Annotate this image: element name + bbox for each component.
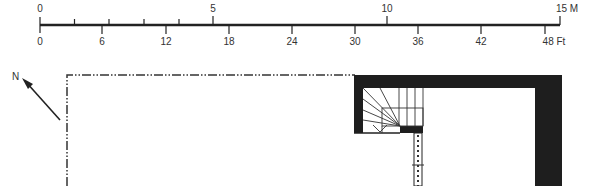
- scale-label-ft-48: 48 Ft: [543, 36, 566, 47]
- scale-label-ft-36: 36: [412, 36, 423, 47]
- floor-plan-diagram: 0 5 10 15 M 0 6 12 18 24 30 36 42 48 Ft …: [0, 0, 602, 186]
- scale-label-ft-18: 18: [223, 36, 234, 47]
- north-label: N: [12, 71, 19, 82]
- scale-bar: [40, 16, 560, 34]
- scale-label-ft-0: 0: [37, 36, 43, 47]
- scale-label-ft-12: 12: [160, 36, 171, 47]
- interior-partition: [412, 133, 424, 186]
- scale-label-metric-0: 0: [37, 3, 43, 14]
- staircase: [363, 88, 423, 133]
- scale-label-ft-6: 6: [99, 36, 105, 47]
- north-arrow-icon: [22, 78, 60, 120]
- scale-label-metric-15: 15 M: [556, 3, 578, 14]
- scale-label-ft-42: 42: [475, 36, 486, 47]
- scale-label-ft-30: 30: [349, 36, 360, 47]
- scale-label-ft-24: 24: [286, 36, 297, 47]
- scale-label-metric-5: 5: [210, 3, 216, 14]
- scale-label-metric-10: 10: [381, 3, 392, 14]
- building-walls: [354, 75, 562, 186]
- plan-drawing: [0, 0, 602, 186]
- property-boundary: [67, 75, 355, 186]
